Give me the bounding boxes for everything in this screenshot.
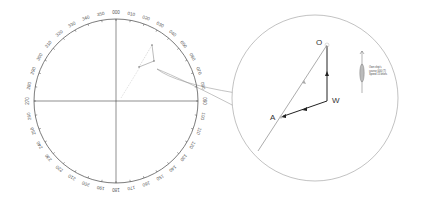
compass-label: 130 xyxy=(179,153,188,162)
compass-label: 020 xyxy=(142,14,151,21)
magnified-view: O W A Own ship's course 000 (T) Speed 15… xyxy=(232,15,398,181)
compass-label: 330 xyxy=(67,20,77,28)
compass-label: 350 xyxy=(96,11,105,17)
compass-label: 180 xyxy=(112,187,120,192)
compass-label: 090 xyxy=(202,97,207,105)
label-a: A xyxy=(270,113,276,122)
compass-label: 290 xyxy=(29,66,36,75)
own-ship-note-line2: course 000 (T) xyxy=(369,69,386,73)
compass-label: 310 xyxy=(44,39,53,48)
compass-label: 260 xyxy=(26,112,32,121)
compass-label: 010 xyxy=(127,11,136,17)
compass-label: 060 xyxy=(188,52,196,62)
compass-label: 140 xyxy=(168,164,177,173)
compass-label: 340 xyxy=(81,14,90,21)
compass-label: 250 xyxy=(29,126,36,135)
compass-label: 000 xyxy=(112,10,120,15)
compass-label: 120 xyxy=(188,141,196,151)
callout-connector xyxy=(157,69,238,108)
relative-motion-diagram: 0000100200300400500600700800901001101201… xyxy=(0,0,425,205)
compass-label: 230 xyxy=(44,153,53,162)
compass-label: 100 xyxy=(200,112,206,121)
compass-label: 280 xyxy=(26,81,32,90)
label-w: W xyxy=(332,96,340,105)
compass-label: 220 xyxy=(54,164,63,173)
compass-label: 240 xyxy=(35,140,43,150)
label-o: O xyxy=(316,38,322,47)
compass-label: 210 xyxy=(67,173,77,181)
compass-label: 300 xyxy=(35,52,43,62)
compass-label: 050 xyxy=(179,40,188,49)
compass-rose: 0000100200300400500600700800901001101201… xyxy=(25,10,207,192)
compass-label: 190 xyxy=(96,185,105,191)
compass-label: 170 xyxy=(127,185,136,191)
magnifier-circle xyxy=(232,15,398,181)
compass-label: 040 xyxy=(168,29,177,38)
compass-label: 200 xyxy=(81,180,90,187)
compass-label: 270 xyxy=(25,97,30,105)
own-ship-note-line1: Own ship's xyxy=(369,65,382,69)
compass-label: 030 xyxy=(156,20,166,28)
compass-label: 070 xyxy=(195,66,202,75)
mini-vector-plot xyxy=(121,44,155,98)
compass-label: 160 xyxy=(141,180,150,187)
compass-label: 320 xyxy=(55,29,64,38)
point-a-marker xyxy=(280,116,283,119)
compass-label: 110 xyxy=(195,127,202,136)
own-ship-note-line3: Speed 15 knots xyxy=(369,72,388,76)
compass-label: 150 xyxy=(155,173,165,181)
